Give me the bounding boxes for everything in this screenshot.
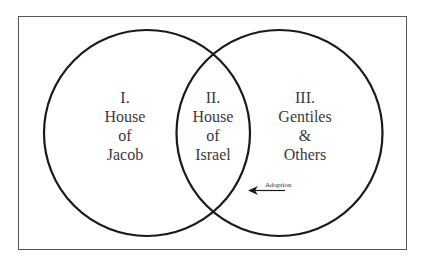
- label-line: Others: [284, 146, 327, 163]
- adoption-annotation: Adoption: [248, 181, 292, 195]
- venn-diagram: I. House of Jacob II. House of Israel II…: [0, 0, 423, 261]
- adoption-label: Adoption: [265, 181, 292, 189]
- label-house-of-israel: II. House of Israel: [193, 89, 234, 163]
- label-line: Jacob: [107, 146, 143, 163]
- label-line: II.: [206, 89, 221, 106]
- label-line: Israel: [195, 146, 231, 163]
- label-gentiles-others: III. Gentiles & Others: [278, 89, 331, 163]
- label-line: House: [105, 108, 146, 125]
- label-house-of-jacob: I. House of Jacob: [105, 89, 146, 163]
- label-line: of: [206, 127, 220, 144]
- label-line: &: [299, 127, 312, 144]
- label-line: House: [193, 108, 234, 125]
- label-line: of: [118, 127, 132, 144]
- label-line: III.: [295, 89, 315, 106]
- label-line: Gentiles: [278, 108, 331, 125]
- label-line: I.: [120, 89, 129, 106]
